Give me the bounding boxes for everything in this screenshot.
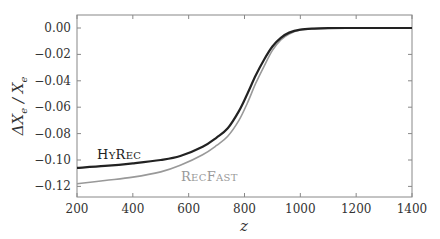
hyrec-label: HYREC (97, 147, 141, 162)
x-tick-label: 1200 (341, 202, 372, 216)
y-tick-label: −0.06 (34, 100, 71, 114)
x-tick-label: 800 (233, 202, 256, 216)
x-tick-label: 1400 (397, 202, 428, 216)
x-axis-label: z (239, 217, 248, 235)
x-tick-label: 1000 (285, 202, 316, 216)
recfast-label: RECFAST (181, 169, 238, 184)
hyrec-line (77, 28, 412, 168)
x-tick-label: 200 (66, 202, 89, 216)
y-tick-label: −0.10 (34, 153, 71, 167)
plot-frame (77, 15, 412, 197)
y-tick-label: −0.02 (34, 47, 71, 61)
x-axis-ticks: 200400600800100012001400 (66, 15, 428, 216)
x-tick-label: 600 (177, 202, 200, 216)
y-tick-label: −0.12 (34, 179, 71, 193)
x-tick-label: 400 (121, 202, 144, 216)
recombination-chart: 200400600800100012001400 0.00−0.02−0.04−… (0, 0, 440, 239)
y-tick-label: −0.08 (34, 127, 71, 141)
y-tick-label: 0.00 (44, 21, 71, 35)
y-tick-label: −0.04 (34, 74, 71, 88)
plot-area-border (77, 15, 412, 197)
y-axis-label: ΔXe / Xe (9, 77, 29, 137)
